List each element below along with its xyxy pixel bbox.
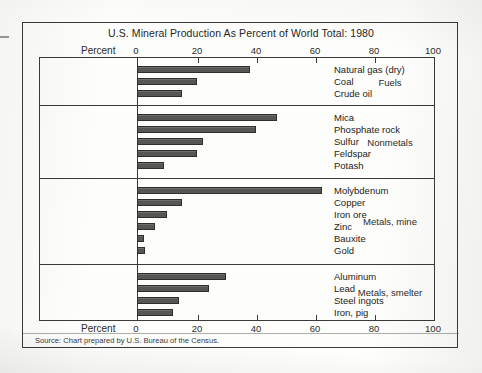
x-tick-label-top-60: 60 [310, 45, 321, 56]
bar [137, 309, 173, 316]
scanned-page-background: U.S. Mineral Production As Percent of Wo… [0, 0, 482, 373]
bar [137, 90, 182, 97]
x-tick-label-top-0: 0 [133, 45, 138, 56]
bar [137, 150, 197, 157]
chart-row: Bauxite [40, 235, 434, 242]
chart-group-fuels: Natural gas (dry) Coal Crude oil Fuels [40, 58, 434, 105]
chart-group-metals-smelter: Aluminum Lead Steel ingots Iron, pig Met… [40, 265, 434, 320]
chart-row: Phosphate rock [40, 126, 434, 133]
bar [137, 285, 209, 292]
row-label: Natural gas (dry) [334, 65, 434, 75]
source-note: Source: Chart prepared by U.S. Bureau of… [35, 336, 219, 345]
row-label: Iron, pig [334, 308, 434, 318]
row-label: Phosphate rock [334, 125, 434, 135]
row-label: Potash [334, 161, 434, 171]
x-axis-label-top: Percent [81, 45, 115, 56]
bar [137, 273, 226, 280]
x-axis-top: Percent 0 20 40 60 80 100 [23, 45, 459, 57]
chart-group-metals-mine: Molybdenum Copper Iron ore Zinc Bauxite [40, 179, 434, 264]
bar [137, 78, 197, 85]
chart-row: Feldspar [40, 150, 434, 157]
chart-row: Gold [40, 247, 434, 254]
row-label: Aluminum [334, 272, 434, 282]
source-divider-rule [23, 333, 459, 334]
chart-row: Steel ingots [40, 297, 434, 304]
bar [137, 199, 182, 206]
chart-plot-area: Natural gas (dry) Coal Crude oil Fuels M… [39, 57, 435, 321]
scan-edge-artifact [0, 36, 9, 38]
x-tick-label-top-40: 40 [251, 45, 262, 56]
chart-row: Mica [40, 114, 434, 121]
row-label: Bauxite [334, 234, 434, 244]
chart-row: Molybdenum [40, 187, 434, 194]
chart-row: Copper [40, 199, 434, 206]
x-tick-label-top-100: 100 [425, 45, 441, 56]
chart-group-nonmetals: Mica Phosphate rock Sulfur Feldspar Pota… [40, 106, 434, 178]
bar [137, 211, 167, 218]
chart-row: Potash [40, 162, 434, 169]
row-label: Molybdenum [334, 186, 434, 196]
row-label: Mica [334, 113, 434, 123]
bar [137, 235, 144, 242]
group-label-metals-mine: Metals, mine [363, 216, 417, 227]
group-label-nonmetals: Nonmetals [367, 137, 412, 148]
x-tick-label-top-80: 80 [369, 45, 380, 56]
chart-row: Crude oil [40, 90, 434, 97]
row-label: Gold [334, 246, 434, 256]
bar [137, 187, 322, 194]
bar [137, 126, 256, 133]
chart-row: Iron, pig [40, 309, 434, 316]
x-tick-label-top-20: 20 [192, 45, 203, 56]
row-label: Feldspar [334, 149, 434, 159]
bar [137, 138, 203, 145]
bar [137, 297, 179, 304]
bar [137, 114, 277, 121]
row-label: Crude oil [334, 89, 434, 99]
bar [137, 66, 250, 73]
chart-figure-frame: U.S. Mineral Production As Percent of Wo… [22, 22, 458, 348]
row-label: Copper [334, 198, 434, 208]
group-label-metals-smelter: Metals, smelter [358, 287, 422, 298]
group-label-fuels: Fuels [378, 77, 401, 88]
bar [137, 223, 155, 230]
bar [137, 162, 164, 169]
bar [137, 247, 145, 254]
chart-row: Natural gas (dry) [40, 66, 434, 73]
chart-row: Coal [40, 78, 434, 85]
chart-row: Aluminum [40, 273, 434, 280]
chart-title: U.S. Mineral Production As Percent of Wo… [23, 27, 459, 39]
